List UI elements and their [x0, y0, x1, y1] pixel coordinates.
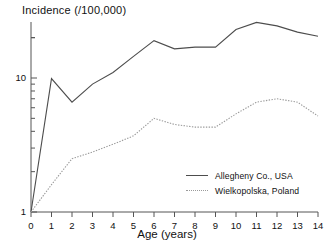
- y-tick-label: 1: [4, 206, 26, 217]
- legend-swatch-dotted-icon: [186, 190, 208, 191]
- legend-swatch-solid-icon: [186, 175, 208, 176]
- x-axis-title: Age (years): [0, 228, 334, 240]
- legend-label-allegheny: Allegheny Co., USA: [215, 171, 293, 181]
- y-tick-label: 10: [4, 72, 26, 83]
- chart-legend: Allegheny Co., USA Wielkopolska, Poland: [186, 168, 299, 198]
- chart-page: Incidence (/100,000) 110 012345678910111…: [0, 0, 334, 248]
- legend-item-allegheny: Allegheny Co., USA: [186, 168, 299, 183]
- legend-label-wielkopolska: Wielkopolska, Poland: [215, 186, 299, 196]
- plot-area: [0, 0, 334, 248]
- legend-item-wielkopolska: Wielkopolska, Poland: [186, 183, 299, 198]
